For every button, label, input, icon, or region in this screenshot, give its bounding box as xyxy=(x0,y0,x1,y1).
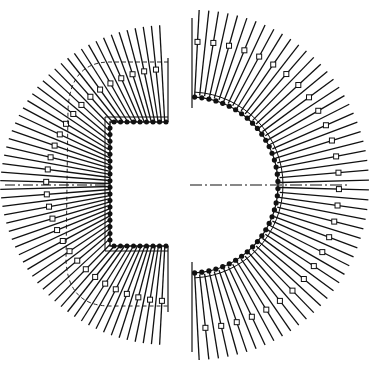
winding-diagram xyxy=(0,0,375,370)
winding-diagram-svg xyxy=(0,0,375,370)
